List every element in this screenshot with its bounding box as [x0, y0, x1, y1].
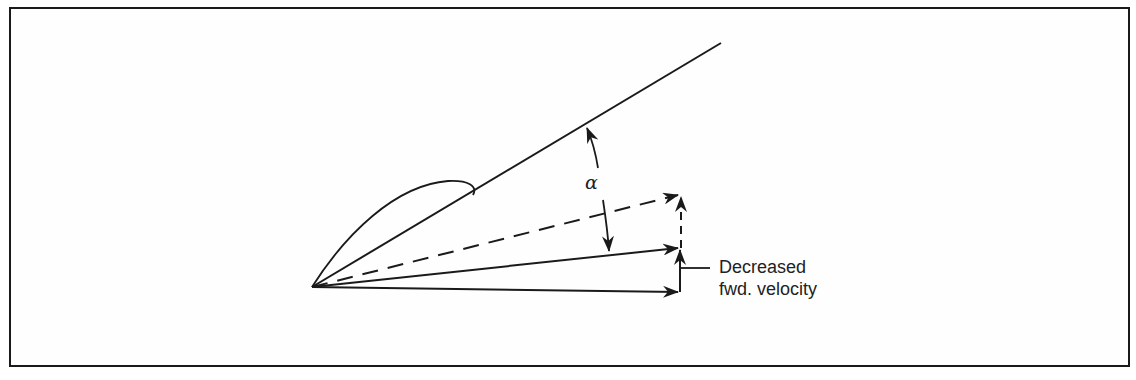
forward-velocity-arrow	[312, 287, 678, 292]
angle-of-attack-arc-lower	[603, 200, 609, 251]
angle-of-attack-label: α	[585, 171, 598, 193]
callout-line-2: fwd. velocity	[719, 278, 817, 300]
airfoil-outline	[312, 181, 474, 287]
decreased-velocity-callout: Decreased fwd. velocity	[719, 256, 817, 300]
angle-of-attack-arc-upper	[587, 128, 598, 168]
airfoil-diagram	[0, 0, 1136, 380]
callout-line-1: Decreased	[719, 256, 817, 278]
original-relative-wind-arrow	[312, 195, 678, 287]
